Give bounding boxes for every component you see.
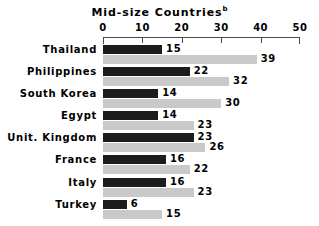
bar-value-label: 15 bbox=[166, 43, 181, 54]
bar-value-label: 23 bbox=[198, 186, 213, 197]
bar-value-label: 23 bbox=[198, 119, 213, 130]
bar-dark-3 bbox=[103, 111, 158, 120]
bar-value-label: 14 bbox=[162, 109, 177, 120]
bar-dark-7 bbox=[103, 200, 127, 209]
bar-light-2 bbox=[103, 99, 221, 108]
category-label-turkey: Turkey bbox=[0, 199, 97, 210]
bar-value-label: 15 bbox=[166, 208, 181, 219]
x-axis-tick-label: 0 bbox=[99, 22, 106, 33]
bar-track: 23 bbox=[103, 188, 300, 197]
bar-dark-6 bbox=[103, 178, 166, 187]
bar-group: South Korea1430 bbox=[0, 88, 319, 110]
bar-value-label: 6 bbox=[131, 198, 139, 209]
x-axis-line bbox=[103, 37, 300, 38]
bar-dark-2 bbox=[103, 89, 158, 98]
bar-track: 32 bbox=[103, 77, 300, 86]
x-axis-tick-mark bbox=[142, 37, 143, 43]
bar-light-7 bbox=[103, 210, 162, 219]
bar-value-label: 16 bbox=[170, 176, 185, 187]
bar-track: 39 bbox=[103, 55, 300, 64]
bar-track: 15 bbox=[103, 210, 300, 219]
category-label-france: France bbox=[0, 154, 97, 165]
x-axis-tick-label: 20 bbox=[174, 22, 189, 33]
bar-dark-4 bbox=[103, 133, 194, 142]
bar-track: 14 bbox=[103, 89, 300, 98]
chart-title-text: Mid-size Countries bbox=[91, 6, 222, 19]
x-axis-tick-mark bbox=[221, 37, 222, 43]
bar-value-label: 26 bbox=[209, 141, 224, 152]
category-label-philippines: Philippines bbox=[0, 66, 97, 77]
bar-dark-5 bbox=[103, 155, 166, 164]
x-axis-tick-label: 30 bbox=[214, 22, 229, 33]
bar-value-label: 22 bbox=[194, 163, 209, 174]
x-axis-tick-mark bbox=[299, 37, 300, 44]
bar-dark-1 bbox=[103, 67, 190, 76]
x-axis-tick-labels: 01020304050 bbox=[103, 22, 300, 35]
category-label-unit-kingdom: Unit. Kingdom bbox=[0, 132, 97, 143]
bar-track: 6 bbox=[103, 200, 300, 209]
x-axis: 01020304050 bbox=[103, 22, 300, 44]
bar-light-4 bbox=[103, 143, 205, 152]
x-axis-tick-label: 50 bbox=[293, 22, 308, 33]
category-label-italy: Italy bbox=[0, 177, 97, 188]
bar-track: 23 bbox=[103, 121, 300, 130]
bar-group: France1622 bbox=[0, 154, 319, 176]
bar-track: 23 bbox=[103, 133, 300, 142]
x-axis-tick-mark bbox=[261, 37, 262, 43]
chart-container: Mid-size Countriesb 01020304050 Thailand… bbox=[0, 0, 319, 226]
bar-group: Thailand1539 bbox=[0, 44, 319, 66]
bar-light-1 bbox=[103, 77, 229, 86]
bar-dark-0 bbox=[103, 45, 162, 54]
bar-light-6 bbox=[103, 188, 194, 197]
bar-track: 22 bbox=[103, 67, 300, 76]
x-axis-tick-mark bbox=[182, 37, 183, 43]
bar-group: Egypt1423 bbox=[0, 110, 319, 132]
bar-group: Unit. Kingdom2326 bbox=[0, 132, 319, 154]
plot-area: Thailand1539Philippines2232South Korea14… bbox=[0, 44, 319, 226]
category-label-thailand: Thailand bbox=[0, 44, 97, 55]
x-axis-tick-label: 40 bbox=[253, 22, 268, 33]
bar-light-0 bbox=[103, 55, 257, 64]
chart-title-footnote-marker: b bbox=[223, 5, 228, 13]
x-axis-tick-mark bbox=[103, 37, 104, 44]
category-label-south-korea: South Korea bbox=[0, 88, 97, 99]
x-axis-tick-label: 10 bbox=[135, 22, 150, 33]
bar-value-label: 14 bbox=[162, 87, 177, 98]
bar-group: Turkey615 bbox=[0, 199, 319, 221]
bar-track: 26 bbox=[103, 143, 300, 152]
bar-value-label: 30 bbox=[225, 97, 240, 108]
category-label-egypt: Egypt bbox=[0, 110, 97, 121]
bar-value-label: 32 bbox=[233, 75, 248, 86]
bar-light-5 bbox=[103, 165, 190, 174]
bar-value-label: 22 bbox=[194, 65, 209, 76]
bar-group: Italy1623 bbox=[0, 177, 319, 199]
chart-title: Mid-size Countriesb bbox=[0, 5, 319, 19]
bar-group: Philippines2232 bbox=[0, 66, 319, 88]
bar-value-label: 39 bbox=[261, 53, 276, 64]
bar-track: 30 bbox=[103, 99, 300, 108]
bar-value-label: 16 bbox=[170, 153, 185, 164]
bar-light-3 bbox=[103, 121, 194, 130]
bar-track: 22 bbox=[103, 165, 300, 174]
